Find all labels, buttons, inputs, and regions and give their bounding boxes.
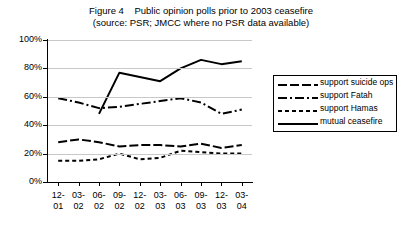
y-axis-tick-label: 80% (6, 63, 42, 72)
legend-line-sample (277, 77, 319, 89)
gridline (48, 97, 252, 98)
gridline (48, 125, 252, 126)
legend-label: support suicide ops (319, 78, 393, 87)
legend-label: support Fatah (319, 91, 372, 100)
y-axis-tick-label: 100% (6, 35, 42, 44)
legend-label: support Hamas (319, 104, 378, 113)
x-axis-tick (119, 182, 120, 186)
series-line (58, 98, 242, 114)
x-axis-tick (242, 182, 243, 186)
x-axis-tick (99, 182, 100, 186)
y-axis-tick-label: 0% (6, 177, 42, 186)
plot-area (48, 40, 252, 182)
y-axis-tick (43, 97, 48, 98)
x-axis-tick (221, 182, 222, 186)
x-axis-tick (181, 182, 182, 186)
y-axis-labels: 0%20%40%60%80%100% (0, 0, 42, 225)
y-axis-tick (43, 182, 48, 183)
legend-item[interactable]: support Hamas (274, 102, 396, 115)
x-axis-tick (58, 182, 59, 186)
y-axis-tick-label: 60% (6, 92, 42, 101)
gridline (48, 68, 252, 69)
series-line (58, 151, 242, 161)
chart-title: Figure 4 Public opinion polls prior to 2… (0, 5, 402, 17)
x-axis-tick (140, 182, 141, 186)
y-axis-tick-label: 20% (6, 149, 42, 158)
chart-legend: support suicide opssupport Fatahsupport … (273, 75, 397, 132)
x-axis-tick-label-part: 04 (229, 201, 255, 212)
legend-line-sample (277, 90, 319, 102)
x-axis-tick-label: 03-04 (229, 190, 255, 212)
x-axis-tick (201, 182, 202, 186)
x-axis-tick-label-part: 03- (229, 190, 255, 201)
y-axis-tick (43, 125, 48, 126)
series-line (58, 139, 242, 148)
gridline (48, 154, 252, 155)
x-axis-tick (79, 182, 80, 186)
legend-item[interactable]: mutual ceasefire (274, 115, 396, 128)
legend-item[interactable]: support suicide ops (274, 76, 396, 89)
legend-line-sample (277, 116, 319, 128)
legend-line-sample (277, 103, 319, 115)
series-lines (48, 40, 252, 182)
y-axis-tick (43, 154, 48, 155)
y-axis-tick (43, 40, 48, 41)
gridline (48, 40, 252, 41)
legend-item[interactable]: support Fatah (274, 89, 396, 102)
y-axis-tick (43, 68, 48, 69)
chart-subtitle: (source: PSR; JMCC where no PSR data ava… (0, 17, 402, 29)
figure-chart: Figure 4 Public opinion polls prior to 2… (0, 0, 402, 225)
chart-title-block: Figure 4 Public opinion polls prior to 2… (0, 5, 402, 29)
x-axis-tick (160, 182, 161, 186)
legend-label: mutual ceasefire (319, 117, 382, 126)
y-axis-tick-label: 40% (6, 120, 42, 129)
